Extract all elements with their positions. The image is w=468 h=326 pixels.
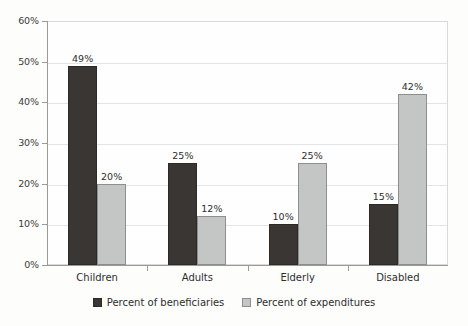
x-axis-tick <box>248 266 249 271</box>
y-axis-tick-label: 40% <box>0 96 39 107</box>
y-axis-tick-label: 0% <box>0 259 39 270</box>
x-axis-category-label: Disabled <box>348 272 448 283</box>
gridline <box>48 63 447 64</box>
legend-label: Percent of beneficiaries <box>107 297 225 308</box>
bar <box>398 94 427 265</box>
y-axis-tick <box>42 21 48 22</box>
bar-chart: 0%10%20%30%40%50%60% ChildrenAdultsElder… <box>0 0 468 326</box>
y-axis-tick <box>42 265 48 266</box>
y-axis-tick <box>42 62 48 63</box>
legend-swatch-icon <box>93 298 102 307</box>
bar-value-label: 42% <box>390 81 435 92</box>
bar-value-label: 25% <box>160 150 205 161</box>
y-axis-tick <box>42 224 48 225</box>
y-axis-tick-label: 30% <box>0 137 39 148</box>
legend-item: Percent of beneficiaries <box>93 297 225 308</box>
bar-value-label: 12% <box>189 203 234 214</box>
bar <box>269 224 298 265</box>
bar-value-label: 25% <box>290 150 335 161</box>
x-axis-category-label: Elderly <box>248 272 348 283</box>
y-axis-tick-label: 60% <box>0 15 39 26</box>
legend-swatch-icon <box>242 298 251 307</box>
bar <box>97 184 126 265</box>
bar-value-label: 20% <box>89 171 134 182</box>
bar <box>369 204 398 265</box>
y-axis-tick <box>42 143 48 144</box>
y-axis-tick-label: 20% <box>0 178 39 189</box>
gridline <box>48 144 447 145</box>
chart-legend: Percent of beneficiariesPercent of expen… <box>0 297 468 308</box>
x-axis-category-label: Adults <box>147 272 247 283</box>
bar-value-label: 49% <box>60 53 105 64</box>
legend-item: Percent of expenditures <box>242 297 375 308</box>
y-axis-tick <box>42 102 48 103</box>
x-axis-category-label: Children <box>47 272 147 283</box>
y-axis-tick <box>42 184 48 185</box>
gridline <box>48 103 447 104</box>
x-axis-tick <box>348 266 349 271</box>
bar <box>68 66 97 265</box>
y-axis-tick-label: 10% <box>0 218 39 229</box>
y-axis-tick-label: 50% <box>0 56 39 67</box>
legend-label: Percent of expenditures <box>256 297 375 308</box>
bar <box>298 163 327 265</box>
bar <box>197 216 226 265</box>
x-axis-tick <box>147 266 148 271</box>
